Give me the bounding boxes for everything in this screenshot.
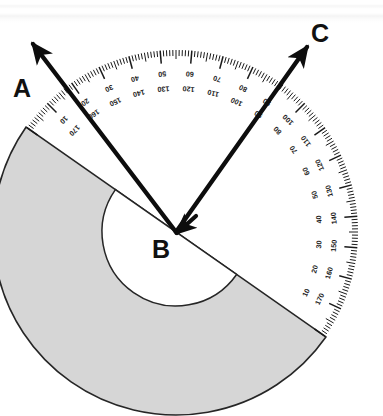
inner-scale-number-10: 10	[300, 287, 312, 298]
inner-scale-number-30: 30	[314, 240, 324, 249]
inner-scale-number-20: 20	[309, 264, 320, 274]
outer-scale-number-80: 80	[237, 83, 248, 95]
outer-scale-number-60: 60	[185, 69, 194, 79]
protractor-figure: 1020304050607080901001101201301401501601…	[0, 0, 383, 416]
outer-scale-number-120: 120	[313, 158, 326, 173]
inner-scale-number-50: 50	[309, 190, 320, 200]
inner-scale-number-130: 130	[157, 84, 170, 94]
outer-scale-number-70: 70	[212, 74, 222, 85]
inner-scale-number-120: 120	[182, 84, 195, 94]
outer-scale-number-100: 100	[281, 113, 296, 128]
inner-scale-number-110: 110	[206, 88, 220, 100]
inner-scale-number-40: 40	[314, 215, 324, 224]
inner-scale-number-60: 60	[300, 166, 312, 177]
protractor-body	[0, 127, 326, 415]
outer-scale-number-10: 10	[58, 114, 70, 126]
outer-scale-number-160: 160	[323, 266, 335, 280]
inner-scale-number-100: 100	[229, 95, 244, 108]
outer-scale-number-130: 130	[323, 184, 335, 198]
inner-scale-number-80: 80	[271, 125, 283, 137]
inner-scale-number-70: 70	[287, 144, 299, 156]
point-label-c: C	[311, 19, 329, 47]
point-label-b: B	[152, 235, 170, 263]
outer-scale-number-40: 40	[130, 74, 140, 85]
point-label-a: A	[13, 74, 31, 102]
protractor-drawing: 1020304050607080901001101201301401501601…	[0, 0, 383, 416]
inner-scale-number-150: 150	[108, 95, 123, 108]
outer-scale-number-140: 140	[329, 212, 339, 225]
ray-bc	[176, 47, 307, 232]
outer-scale-number-30: 30	[104, 83, 115, 95]
outer-scale-number-50: 50	[158, 69, 167, 79]
inner-scale-number-140: 140	[132, 88, 146, 100]
outer-scale-number-170: 170	[313, 292, 326, 307]
outer-scale-number-150: 150	[329, 239, 339, 252]
inner-scale-number-170: 170	[67, 123, 82, 138]
outer-scale-number-110: 110	[299, 134, 313, 149]
